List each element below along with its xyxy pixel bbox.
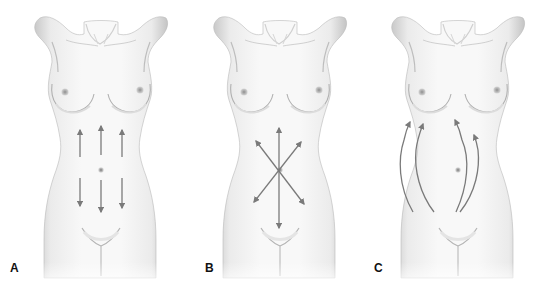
- panel-c: [392, 17, 525, 286]
- panel-b: [214, 17, 347, 286]
- panel-label-a: A: [10, 262, 19, 274]
- torso-figure: [214, 17, 347, 286]
- panel-label-b: B: [205, 262, 214, 274]
- torso-illustration: [0, 0, 546, 286]
- panel-a: [35, 17, 168, 286]
- torso-figure: [392, 17, 525, 286]
- panel-label-c: C: [374, 262, 383, 274]
